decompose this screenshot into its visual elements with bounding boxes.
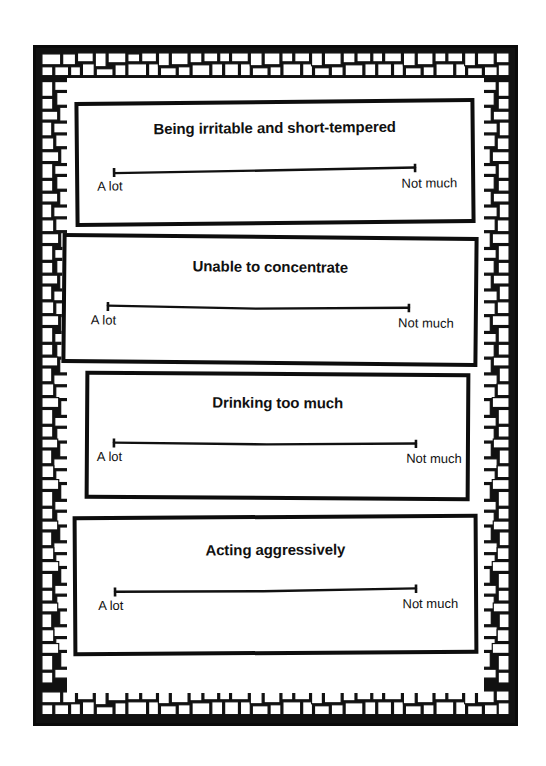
scale-label-row: A lot Not much (91, 312, 454, 330)
scale-left-label: A lot (97, 178, 122, 193)
card-title: Unable to concentrate (66, 256, 474, 277)
scale-right-label: Not much (406, 451, 462, 466)
scale-left-label: A lot (98, 598, 123, 613)
card-title: Being irritable and short-tempered (79, 117, 471, 138)
scale-card[interactable]: Drinking too much A lot Not much (85, 371, 471, 501)
scale-right-label: Not much (398, 315, 454, 331)
scale-card[interactable]: Acting aggressively A lot Not much (73, 514, 479, 656)
scale-card[interactable]: Unable to concentrate A lot Not much (61, 233, 478, 367)
scale-left-label: A lot (91, 312, 116, 327)
scale-label-row: A lot Not much (98, 596, 458, 613)
scale-right-label: Not much (401, 175, 457, 191)
card-title: Acting aggressively (77, 540, 474, 559)
scale-right-label: Not much (402, 596, 458, 611)
scale-label-row: A lot Not much (97, 449, 462, 466)
scale-card[interactable]: Being irritable and short-tempered A lot… (74, 98, 475, 227)
scale-left-label: A lot (97, 449, 122, 464)
card-title: Drinking too much (89, 393, 466, 412)
scale-label-row: A lot Not much (97, 175, 457, 193)
